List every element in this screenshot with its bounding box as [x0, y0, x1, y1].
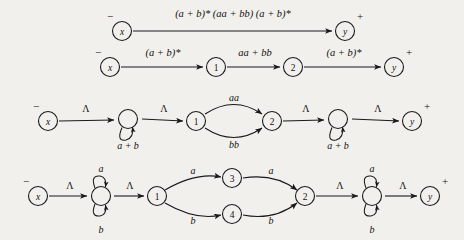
self-loop-label-bottom: b [370, 224, 375, 235]
node-loop-1[interactable]: a + b [117, 110, 139, 152]
node-y-label: y [427, 192, 433, 202]
node-x[interactable]: x − [23, 175, 48, 206]
edge-label-lambda-2: Λ [126, 180, 134, 191]
row-4-diagram: Λ Λ a b a b Λ Λ x − a b 1 3 4 [23, 163, 448, 235]
edge-label-lambda-4: Λ [374, 103, 382, 114]
node-x[interactable]: x − [107, 10, 132, 41]
node-x-label: x [35, 192, 41, 202]
edge-label-1-to-2: aa + bb [238, 47, 271, 58]
node-1[interactable]: 1 [207, 58, 226, 77]
node-1[interactable]: 1 [187, 112, 206, 131]
edge-label-2-to-y: (a + b)* [326, 47, 362, 59]
accept-sign: + [406, 46, 412, 58]
node-1-label: 1 [214, 63, 219, 73]
node-2[interactable]: 2 [263, 112, 282, 131]
edge-label-lambda-2: Λ [160, 103, 168, 114]
row-3-diagram: Λ Λ aa bb Λ Λ x − a + b 1 2 a + b [33, 92, 430, 151]
edge-label-aa: aa [229, 92, 239, 103]
edge-label-x-to-1: (a + b)* [145, 47, 181, 59]
accept-sign: + [357, 10, 363, 22]
self-loop-label-top: a [370, 163, 375, 174]
node-4-label: 4 [230, 210, 235, 220]
edge-label-a-1: a [191, 165, 196, 176]
self-loop-label: a + b [327, 140, 349, 151]
edge-2-to-loop2 [283, 120, 324, 121]
accept-sign: + [424, 100, 430, 112]
edge-label-lambda-1: Λ [66, 180, 74, 191]
row-2-diagram: (a + b)* aa + bb (a + b)* x − 1 2 y + [95, 46, 412, 77]
start-sign: − [23, 175, 29, 187]
node-1[interactable]: 1 [148, 187, 167, 206]
node-loop-2-circle[interactable] [363, 187, 382, 206]
node-y-label: y [409, 117, 415, 127]
edge-label-lambda-4: Λ [399, 180, 407, 191]
node-2[interactable]: 2 [296, 187, 315, 206]
node-x-label: x [107, 63, 113, 73]
edge-label-bb: bb [229, 139, 239, 150]
edge-label-b-1: b [191, 215, 196, 226]
self-loop-arc [330, 127, 343, 140]
node-loop-1-circle[interactable] [92, 187, 111, 206]
edge-label-b-2: b [269, 215, 274, 226]
start-sign: − [33, 100, 39, 112]
figure-canvas: (a + b)* (aa + bb) (a + b)* x − y + (a +… [0, 0, 464, 240]
node-loop-1[interactable]: a b [92, 163, 111, 235]
edge-label-lambda-1: Λ [82, 103, 90, 114]
node-3-label: 3 [230, 174, 235, 184]
node-y[interactable]: y + [336, 10, 364, 41]
self-loop-label-top: a [99, 163, 104, 174]
node-loop-2-circle[interactable] [329, 110, 348, 129]
node-y[interactable]: y + [403, 100, 431, 131]
node-x-label: x [119, 27, 125, 37]
edge-loop1-to-1 [142, 119, 183, 121]
transition-graph-figure: (a + b)* (aa + bb) (a + b)* x − y + (a +… [0, 0, 464, 240]
edge-label-lambda-3: Λ [302, 103, 310, 114]
node-2-label: 2 [270, 117, 275, 127]
accept-sign: + [442, 175, 448, 187]
edge-3-to-2 [243, 177, 297, 190]
edge-x-to-loop1 [59, 120, 114, 121]
node-3[interactable]: 3 [223, 169, 242, 188]
self-loop-label: a + b [117, 140, 139, 151]
node-loop-2[interactable]: a + b [327, 110, 349, 152]
edge-label-regex: (a + b)* (aa + bb) (a + b)* [175, 8, 291, 20]
node-y-label: y [391, 63, 397, 73]
node-y-label: y [342, 27, 348, 37]
edge-1-to-3 [165, 176, 221, 190]
node-2-label: 2 [291, 63, 296, 73]
node-1-label: 1 [194, 117, 199, 127]
self-loop-label-bottom: b [99, 224, 104, 235]
edge-1-to-2-bb [205, 128, 262, 138]
row-1-diagram: (a + b)* (aa + bb) (a + b)* x − y + [107, 8, 363, 41]
node-loop-2[interactable]: a b [363, 163, 382, 235]
node-4[interactable]: 4 [223, 205, 242, 224]
edge-loop2-to-y [352, 119, 399, 121]
start-sign: − [107, 10, 113, 22]
node-2-label: 2 [303, 192, 308, 202]
node-x[interactable]: x − [95, 46, 120, 77]
edge-1-to-2-aa [205, 105, 262, 115]
node-x-label: x [45, 117, 51, 127]
edge-label-a-2: a [269, 165, 274, 176]
node-y[interactable]: y + [385, 46, 413, 77]
edge-label-lambda-3: Λ [336, 180, 344, 191]
node-1-label: 1 [155, 192, 160, 202]
self-loop-arc [120, 127, 133, 140]
start-sign: − [95, 46, 101, 58]
node-loop-1-circle[interactable] [119, 110, 138, 129]
node-x[interactable]: x − [33, 100, 58, 131]
node-y[interactable]: y + [421, 175, 449, 206]
node-2[interactable]: 2 [284, 58, 303, 77]
